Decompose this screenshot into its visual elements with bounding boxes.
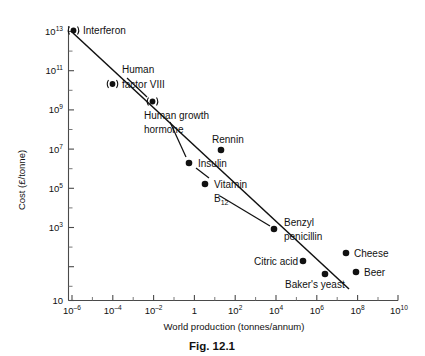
x-tick-label-4: 102 [228, 304, 243, 316]
point-labels: Interferon Human factor VIII Human growt… [83, 25, 389, 290]
x-tick-label-7: 108 [350, 304, 365, 316]
point-rennin[interactable] [218, 147, 225, 154]
label-benzyl-penicillin-line2: penicillin [284, 231, 322, 242]
x-tick-label-2: 10–2 [145, 304, 163, 316]
x-axis-title: World production (tonnes/annum) [164, 321, 305, 332]
point-interferon[interactable] [68, 27, 79, 35]
point-human-factor-viii[interactable] [107, 80, 118, 88]
y-axis-ticks [69, 32, 75, 301]
label-insulin: Insulin [198, 158, 227, 169]
y-tick-label-5: 103 [49, 221, 64, 233]
label-benzyl-penicillin-line1: Benzyl [284, 217, 314, 228]
y-tick-label-3: 107 [49, 143, 64, 155]
axis-lines [69, 26, 399, 301]
label-vitamin-b12-line1: Vitamin [214, 179, 247, 190]
y-tick-label-4: 105 [49, 182, 64, 194]
y-tick-label-6: 10 [52, 295, 63, 306]
x-axis-ticks [72, 295, 398, 301]
label-human-factor-viii-line1: Human [122, 64, 154, 75]
y-tick-label-2: 109 [49, 103, 64, 115]
point-insulin[interactable] [186, 160, 193, 167]
label-rennin: Rennin [212, 134, 244, 145]
label-vitamin-b12-line2: B12 [214, 193, 229, 206]
x-tick-label-5: 104 [269, 304, 284, 316]
y-axis-title: Cost (£/tonne) [16, 150, 27, 210]
label-interferon: Interferon [83, 25, 126, 36]
x-tick-label-3: 1 [192, 305, 197, 316]
point-cheese[interactable] [343, 250, 350, 257]
label-human-growth-hormone-line2: hormone [144, 124, 184, 135]
figure-caption: Fig. 12.1 [189, 340, 236, 352]
y-tick-labels: 1013 1011 109 107 105 103 10 [45, 25, 63, 306]
point-benzyl-penicillin[interactable] [271, 226, 278, 233]
figure-12-1: 10–6 10–4 10–2 1 102 104 106 108 1010 10… [0, 0, 425, 356]
label-citric-acid: Citric acid [254, 256, 298, 267]
y-tick-label-1: 1011 [46, 64, 64, 76]
point-vitamin-b12[interactable] [202, 181, 209, 188]
label-cheese: Cheese [354, 248, 389, 259]
point-citric-acid[interactable] [300, 258, 307, 265]
label-human-factor-viii-line2: factor VIII [122, 79, 165, 90]
x-tick-label-8: 1010 [390, 304, 408, 316]
label-human-growth-hormone-line1: Human growth [144, 110, 209, 121]
label-bakers-yeast: Baker's yeast [285, 279, 345, 290]
leader-vitamin-b12 [196, 168, 209, 178]
label-beer: Beer [364, 267, 386, 278]
x-tick-label-1: 10–4 [104, 304, 122, 316]
point-beer[interactable] [353, 269, 360, 276]
leader-lines [127, 78, 270, 226]
y-tick-label-0: 1013 [45, 25, 63, 37]
point-bakers-yeast[interactable] [322, 271, 329, 278]
x-tick-label-0: 10–6 [63, 304, 81, 316]
x-tick-label-6: 106 [310, 304, 325, 316]
x-tick-labels: 10–6 10–4 10–2 1 102 104 106 108 1010 [63, 304, 408, 316]
scatter-plot: 10–6 10–4 10–2 1 102 104 106 108 1010 10… [0, 0, 425, 356]
